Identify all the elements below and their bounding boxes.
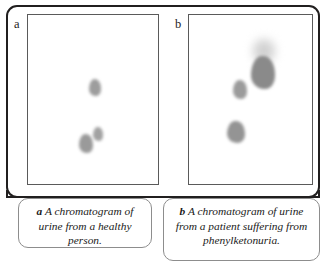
spot-a-lower-right bbox=[93, 127, 103, 141]
chromatogram-figure: a b a A chromatogram of urine from a hea… bbox=[0, 0, 330, 261]
caption-a-text: A chromatogram of urine from a healthy p… bbox=[39, 205, 134, 246]
frame-stem-middle bbox=[148, 196, 170, 198]
spot-b-large-dark bbox=[251, 56, 275, 89]
frame-stem-bottom-left bbox=[6, 196, 20, 198]
spot-a-lower-left bbox=[79, 134, 93, 153]
caption-b: b A chromatogram of urine from a patient… bbox=[163, 198, 320, 261]
caption-b-text: A chromatogram of urine from a patient s… bbox=[176, 205, 307, 246]
panel-a-label: a bbox=[14, 18, 20, 31]
panel-b-label: b bbox=[175, 18, 181, 31]
caption-a: a A chromatogram of urine from a healthy… bbox=[18, 198, 152, 248]
panel-b bbox=[188, 14, 313, 185]
caption-a-letter: a bbox=[37, 205, 43, 217]
caption-b-letter: b bbox=[180, 205, 186, 217]
panel-a bbox=[27, 14, 159, 185]
spot-b-middle bbox=[233, 80, 247, 99]
spot-b-lower bbox=[227, 121, 245, 143]
spot-a-upper bbox=[89, 79, 101, 96]
